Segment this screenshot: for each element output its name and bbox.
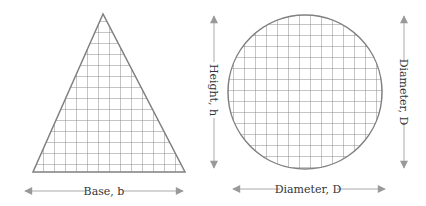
circle-grid: [226, 13, 386, 173]
circle-shape: [226, 13, 386, 173]
diameter-v-label: Diameter, D: [397, 59, 410, 126]
diameter-h-label: Diameter, D: [275, 183, 342, 196]
diameter-vertical-dimension: Diameter, D: [397, 16, 410, 168]
height-dimension: Height, h: [207, 16, 220, 168]
diameter-horizontal-dimension: Diameter, D: [233, 183, 385, 196]
base-label: Base, b: [84, 185, 125, 198]
base-dimension: Base, b: [25, 185, 183, 198]
height-label: Height, h: [207, 64, 220, 116]
diagram-canvas: Base, b Height, h Diameter, D Diameter, …: [0, 0, 426, 206]
triangle-shape: [30, 10, 190, 175]
triangle-grid: [30, 10, 190, 175]
